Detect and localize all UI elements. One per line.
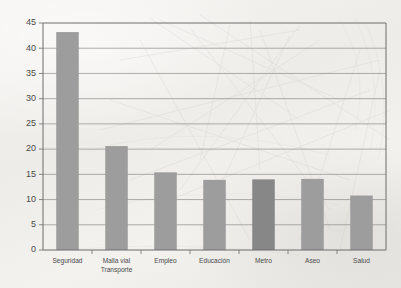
x-tick-label: Educación	[199, 257, 230, 264]
bar-aseo	[301, 179, 324, 250]
bars-group	[56, 32, 373, 250]
y-tick-label: 5	[31, 219, 36, 229]
bar-chart: 051015202530354045 SeguridadMalla vialTr…	[0, 0, 401, 288]
x-tick-label: Aseo	[305, 257, 320, 264]
x-axis-ticks: SeguridadMalla vialTransporteEmpleoEduca…	[52, 250, 370, 274]
y-tick-label: 10	[26, 194, 36, 204]
x-tick-label: Empleo	[154, 257, 177, 265]
bar-educación	[203, 180, 226, 250]
bar-salud	[350, 196, 373, 250]
y-tick-label: 25	[26, 118, 36, 128]
x-tick-label: Salud	[353, 257, 370, 264]
y-axis-ticks: 051015202530354045	[26, 17, 43, 254]
bar-malla-vial-transporte	[105, 146, 128, 250]
bar-empleo	[154, 172, 177, 250]
x-tick-label: Malla vialTransporte	[101, 257, 133, 274]
y-tick-label: 20	[26, 143, 36, 153]
y-tick-label: 40	[26, 43, 36, 53]
x-tick-label: Seguridad	[52, 257, 82, 265]
y-tick-label: 0	[31, 244, 36, 254]
y-tick-label: 15	[26, 169, 36, 179]
bar-metro	[252, 179, 275, 250]
y-tick-label: 45	[26, 17, 36, 27]
y-tick-label: 35	[26, 68, 36, 78]
y-tick-label: 30	[26, 93, 36, 103]
bar-seguridad	[56, 32, 79, 250]
x-tick-label: Metro	[255, 257, 272, 264]
